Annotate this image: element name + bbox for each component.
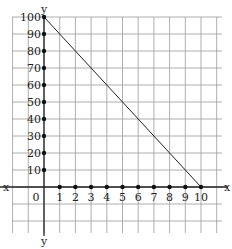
y-tick-label: 40: [27, 113, 41, 126]
y-tick-dot: [42, 134, 46, 138]
y-tick-dot: [42, 32, 46, 36]
x-tick-dot: [167, 185, 171, 189]
y-tick-dot: [42, 83, 46, 87]
y-tick-label: 60: [27, 79, 41, 92]
y-tick-label: 30: [27, 130, 41, 143]
x-tick-label: 7: [150, 191, 157, 204]
x-axis-label-left: x: [3, 181, 10, 194]
y-axis-label-bottom: y: [40, 235, 48, 248]
x-tick-dot: [152, 185, 156, 189]
y-tick-label: 20: [27, 147, 41, 160]
y-tick-label: 100: [20, 11, 41, 24]
y-tick-dot: [42, 168, 46, 172]
axis-labels: y y x x 0 123456789101020304050607080901…: [3, 3, 231, 248]
y-tick-dot: [42, 49, 46, 53]
x-tick-label: 9: [182, 191, 189, 204]
y-tick-label: 10: [27, 164, 41, 177]
x-tick-dot: [183, 185, 187, 189]
y-tick-label: 90: [27, 28, 41, 41]
x-tick-dot: [58, 185, 62, 189]
y-tick-dot: [42, 66, 46, 70]
x-tick-dot: [136, 185, 140, 189]
x-tick-dot: [120, 185, 124, 189]
x-tick-label: 1: [56, 191, 63, 204]
y-tick-label: 70: [27, 62, 41, 75]
x-tick-label: 6: [135, 191, 142, 204]
x-tick-dot: [73, 185, 77, 189]
x-axis-label-right: x: [224, 181, 231, 194]
x-tick-dot: [89, 185, 93, 189]
y-tick-dot: [42, 117, 46, 121]
y-tick-label: 80: [27, 45, 41, 58]
y-axis-label-top: y: [40, 3, 48, 16]
x-tick-label: 3: [88, 191, 95, 204]
origin-label: 0: [33, 191, 40, 204]
x-tick-label: 5: [119, 191, 126, 204]
y-tick-dot: [42, 100, 46, 104]
x-tick-label: 4: [103, 191, 110, 204]
coordinate-grid-chart: y y x x 0 123456789101020304050607080901…: [0, 0, 232, 249]
x-tick-label: 10: [194, 191, 208, 204]
x-tick-dot: [199, 185, 203, 189]
y-tick-dot: [42, 151, 46, 155]
x-tick-label: 2: [72, 191, 79, 204]
y-tick-label: 50: [27, 96, 41, 109]
x-tick-dot: [105, 185, 109, 189]
x-tick-label: 8: [166, 191, 173, 204]
